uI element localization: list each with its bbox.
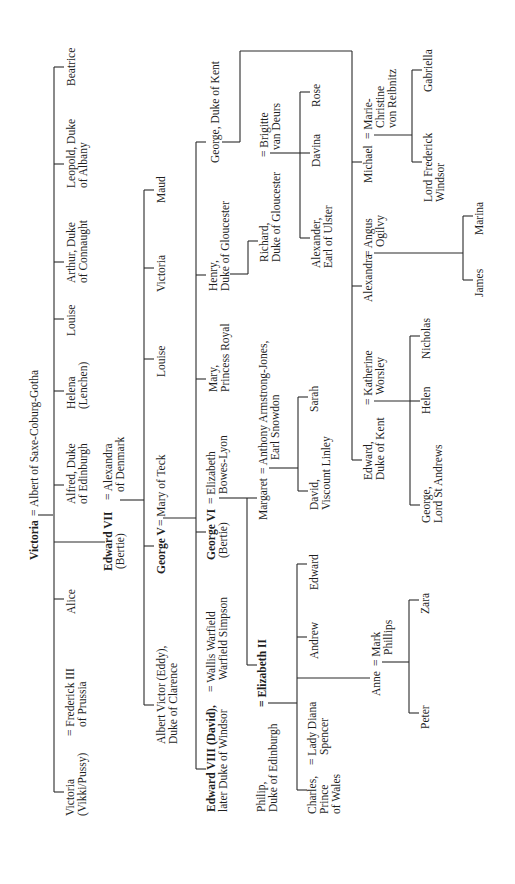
svg-text:Duke of Clarence: Duke of Clarence (167, 663, 179, 744)
person-nicholas: Nicholas (420, 318, 432, 359)
person-albert: Albert of Saxe-Coburg-Gotha (28, 370, 41, 507)
person-george-st-andrews: George, Lord St Andrews (420, 444, 444, 523)
svg-text:Andrew: Andrew (308, 621, 320, 659)
svg-text:= Mary of Teck: = Mary of Teck (155, 454, 168, 526)
person-david-linley: David, Viscount Linley (308, 436, 333, 510)
svg-text:James: James (473, 268, 485, 297)
svg-text:George V: George V (155, 527, 168, 574)
svg-text:Alice: Alice (65, 589, 77, 614)
svg-text:(Vikki/Pussy): (Vikki/Pussy) (76, 753, 89, 816)
person-helen: Helen (420, 386, 432, 414)
person-zara: Zara (419, 593, 431, 614)
person-louise-gen3: Louise (155, 346, 167, 377)
svg-text:Spencer: Spencer (318, 718, 331, 755)
svg-text:Warfield Simpson: Warfield Simpson (217, 597, 230, 680)
svg-text:Beatrice: Beatrice (65, 48, 77, 86)
svg-text:Phillips: Phillips (382, 619, 395, 655)
svg-text:of Edinburgh: of Edinburgh (77, 443, 90, 504)
svg-text:Sarah: Sarah (308, 386, 320, 412)
person-george-v: George V = Mary of Teck (155, 454, 168, 574)
svg-text:Marina: Marina (473, 202, 485, 235)
person-victoria-queen: Victoria = (28, 510, 40, 561)
person-leopold: Leopold, Duke of Albany (65, 119, 90, 188)
svg-text:van Deurs: van Deurs (270, 103, 282, 150)
svg-text:Worsley: Worsley (374, 357, 387, 395)
svg-text:= Katherine: = Katherine (362, 350, 374, 405)
person-rose: Rose (310, 84, 322, 107)
person-alexandra: Alexandra = Angus Ogilvy (362, 215, 387, 302)
svg-text:= Alexandra: = Alexandra (102, 443, 114, 500)
person-peter: Peter (419, 705, 431, 729)
person-edward-kent: Edward, Duke of Kent = Katherine Worsley (362, 350, 387, 480)
svg-text:Rose: Rose (310, 84, 322, 107)
svg-text:Viscount Linley: Viscount Linley (320, 436, 333, 510)
svg-text:Helen: Helen (420, 386, 432, 414)
svg-text:Windsor: Windsor (434, 163, 446, 202)
svg-text:Ogilvy: Ogilvy (374, 215, 387, 247)
svg-text:Earl of Ulster: Earl of Ulster (322, 205, 334, 268)
svg-text:Louise: Louise (155, 346, 167, 377)
person-victoria-vikki: Victoria (Vikki/Pussy) = Frederick III o… (64, 668, 89, 816)
svg-text:Peter: Peter (419, 705, 431, 729)
svg-text:Gabriella: Gabriella (422, 49, 434, 92)
person-louise-gen2: Louise (65, 305, 77, 336)
svg-text:of Denmark: of Denmark (114, 437, 126, 492)
person-edward-vii: Edward VII (Bertie) = Alexandra of Denma… (102, 437, 127, 571)
svg-text:Princess Royal: Princess Royal (219, 323, 232, 392)
svg-text:of Albany: of Albany (77, 142, 90, 188)
svg-text:Albert of Saxe-Coburg-Gotha: Albert of Saxe-Coburg-Gotha (28, 370, 41, 507)
svg-text:Edward: Edward (308, 554, 320, 590)
svg-text:Helena: Helena (65, 376, 77, 409)
person-alexander-ulster: Alexander, Earl of Ulster (310, 205, 334, 268)
svg-text:= Wallis Warfield: = Wallis Warfield (205, 611, 217, 692)
svg-text:Bowes-Lyon: Bowes-Lyon (217, 435, 230, 494)
svg-text:Duke of Gloucester: Duke of Gloucester (219, 201, 231, 291)
svg-text:later Duke of Windsor: later Duke of Windsor (217, 709, 229, 812)
person-edward-wessex: Edward (308, 554, 320, 590)
svg-text:= Frederick III: = Frederick III (64, 668, 76, 736)
person-sarah: Sarah (308, 386, 320, 412)
svg-text:= Marie-: = Marie- (362, 98, 374, 139)
person-helena: Helena (Lenchen) (65, 362, 90, 409)
person-james: James (473, 268, 485, 297)
svg-text:= Elizabeth: = Elizabeth (205, 451, 217, 504)
svg-text:Maud: Maud (155, 176, 167, 203)
svg-text:George, Duke of Kent: George, Duke of Kent (209, 60, 222, 163)
svg-text:Earl Snowdon: Earl Snowdon (269, 394, 281, 460)
svg-text:Anne: Anne (370, 671, 382, 696)
person-andrew: Andrew (308, 621, 320, 659)
family-tree-diagram: Victoria = Albert of Saxe-Coburg-Gotha V… (0, 0, 515, 884)
person-frederick-windsor: Lord Frederick Windsor (422, 132, 446, 202)
svg-text:Duke of Kent: Duke of Kent (374, 417, 386, 480)
person-margaret: Margaret = Anthony Armstrong-Jones, Earl… (257, 341, 281, 520)
svg-text:(Bertie): (Bertie) (114, 533, 127, 569)
person-maud: Maud (155, 176, 167, 203)
svg-text:Victoria: Victoria (28, 520, 40, 560)
person-arthur: Arthur, Duke of Connaught (65, 219, 90, 283)
svg-text:Zara: Zara (419, 593, 431, 614)
svg-text:Lord Frederick: Lord Frederick (422, 132, 434, 202)
person-richard-gloucester: Richard, Duke of Gloucester = Brigitte v… (258, 103, 282, 262)
person-gabriella: Gabriella (422, 49, 434, 92)
svg-text:Duke of Gloucester: Duke of Gloucester (270, 172, 282, 262)
svg-text:of Connaught: of Connaught (77, 219, 90, 283)
person-michael: Michael = Marie- Christine von Reibnitz (362, 69, 398, 183)
svg-text:(Lenchen): (Lenchen) (77, 362, 90, 409)
svg-text:Margaret: Margaret (257, 477, 270, 520)
svg-text:Louise: Louise (65, 305, 77, 336)
svg-text:Christine: Christine (374, 86, 386, 128)
person-elizabeth-ii: = Elizabeth II (256, 639, 268, 707)
person-charles: Charles, Prince of Wales = Lady Diana Sp… (306, 702, 342, 814)
svg-text:von Reibnitz: von Reibnitz (386, 69, 398, 128)
svg-text:of Wales: of Wales (330, 773, 342, 814)
svg-text:Victoria: Victoria (64, 779, 76, 816)
svg-text:Lord St Andrews: Lord St Andrews (432, 444, 444, 523)
person-beatrice: Beatrice (65, 48, 77, 86)
svg-text:of Prussia: of Prussia (76, 681, 88, 727)
svg-text:= Elizabeth II: = Elizabeth II (256, 639, 268, 707)
person-edward-viii: Edward VIII (David), later Duke of Winds… (205, 597, 230, 812)
svg-text:Michael: Michael (362, 145, 374, 183)
svg-text:Edward VII: Edward VII (102, 511, 114, 571)
svg-text:= Mark: = Mark (370, 631, 382, 666)
person-albert-victor: Albert Victor (Eddy), Duke of Clarence (155, 645, 179, 744)
